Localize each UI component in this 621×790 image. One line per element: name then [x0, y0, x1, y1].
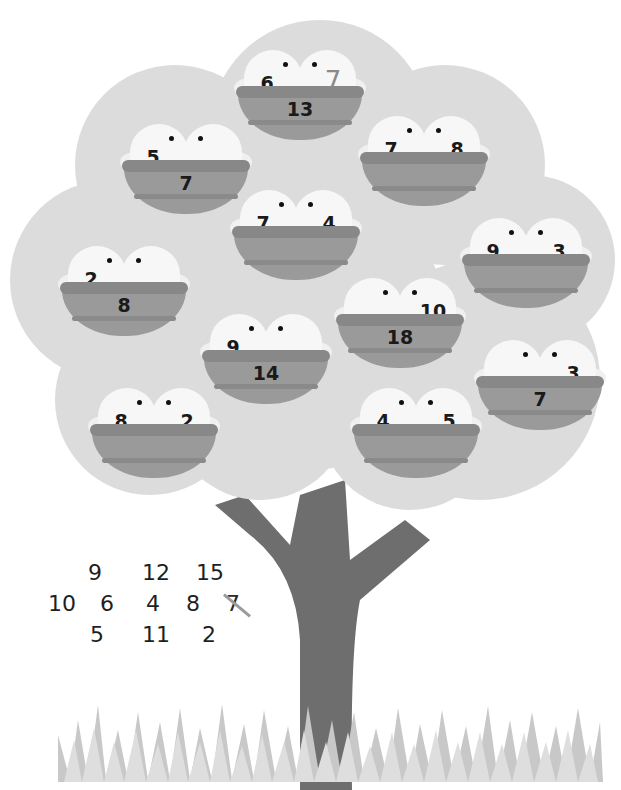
eye-icon: [283, 62, 288, 67]
eye-icon: [137, 400, 142, 405]
nest-basket: 7: [478, 376, 602, 430]
eye-icon: [428, 400, 433, 405]
nest-basket-blank[interactable]: [362, 152, 486, 206]
nest-basket-blank[interactable]: [92, 424, 216, 478]
nest-lower-left: 8 2: [90, 384, 220, 484]
eye-icon: [312, 62, 317, 67]
eye-icon: [278, 326, 283, 331]
nest-basket: 13: [238, 86, 362, 140]
nest-basket-blank[interactable]: [354, 424, 478, 478]
bank-number[interactable]: 15: [196, 560, 224, 585]
eye-icon: [136, 258, 141, 263]
eye-icon: [279, 202, 284, 207]
bank-number-crossed[interactable]: 7: [226, 591, 240, 616]
eye-icon: [552, 352, 557, 357]
nest-mid-left: 9 14: [202, 310, 332, 410]
bank-number[interactable]: 8: [186, 591, 200, 616]
eye-icon: [538, 230, 543, 235]
nest-right: 9 3: [462, 214, 592, 314]
bank-number[interactable]: 5: [90, 622, 104, 647]
nest-upper-right: 7 8: [360, 112, 490, 212]
eye-icon: [169, 136, 174, 141]
bank-number[interactable]: 12: [142, 560, 170, 585]
nest-basket: 7: [124, 160, 248, 214]
eye-icon: [412, 290, 417, 295]
eye-icon: [249, 326, 254, 331]
eye-icon: [166, 400, 171, 405]
bank-number[interactable]: 11: [142, 622, 170, 647]
bank-number[interactable]: 9: [88, 560, 102, 585]
eye-icon: [198, 136, 203, 141]
eye-icon: [523, 352, 528, 357]
bank-number[interactable]: 2: [202, 622, 216, 647]
nest-top-center: 6 7 13: [236, 46, 366, 146]
bank-number[interactable]: 6: [100, 591, 114, 616]
eye-icon: [107, 258, 112, 263]
bank-number[interactable]: 10: [48, 591, 76, 616]
nest-center: 7 4: [232, 186, 362, 286]
nest-basket: 8: [62, 282, 186, 336]
eye-icon: [509, 230, 514, 235]
nest-basket: 14: [204, 350, 328, 404]
eye-icon: [383, 290, 388, 295]
nest-lower-right: 4 5: [352, 384, 482, 484]
eye-icon: [436, 128, 441, 133]
nest-mid-right: 10 18: [336, 274, 466, 374]
nest-far-right: 3 7: [476, 336, 606, 436]
eye-icon: [308, 202, 313, 207]
nest-left: 2 8: [60, 242, 190, 342]
nest-basket-blank[interactable]: [234, 226, 358, 280]
nest-basket: 18: [338, 314, 462, 368]
nest-basket-blank[interactable]: [464, 254, 588, 308]
bank-number[interactable]: 4: [146, 591, 160, 616]
eye-icon: [399, 400, 404, 405]
eye-icon: [407, 128, 412, 133]
